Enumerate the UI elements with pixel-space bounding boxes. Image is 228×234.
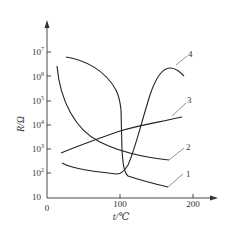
- y-tick-1e5: 105: [32, 95, 44, 106]
- y-tick-1e4: 104: [32, 119, 44, 130]
- x-tick-200: 200: [186, 199, 200, 209]
- y-tick-1e6: 106: [32, 71, 44, 82]
- y-tick-labels: 107 106 105 104 103 102 10: [32, 46, 44, 202]
- x-axis-arrow-icon: [210, 196, 218, 201]
- curve-label-2: 2: [186, 142, 191, 152]
- y-tick-1e2: 102: [32, 167, 44, 178]
- curve-labels: 4 3 2 1: [168, 49, 193, 187]
- curve-1: [66, 57, 168, 187]
- curve-label-3: 3: [187, 95, 192, 105]
- axes: [45, 20, 219, 201]
- y-tick-1e7: 107: [32, 46, 44, 57]
- y-axis-label: R/Ω: [15, 116, 26, 133]
- curve-2: [57, 66, 169, 160]
- x-axis-label: t/℃: [113, 211, 130, 222]
- curves: [57, 57, 184, 187]
- x-tick-0: 0: [45, 203, 50, 213]
- curve-label-4: 4: [188, 49, 193, 59]
- y-tick-10: 10: [32, 192, 42, 202]
- resistance-temperature-chart: 107 106 105 104 103 102 10 R/Ω 0 100 200…: [0, 0, 228, 234]
- curve-label-1: 1: [186, 169, 191, 179]
- y-axis-arrow-icon: [45, 20, 50, 28]
- x-tick-100: 100: [113, 199, 127, 209]
- y-tick-1e3: 103: [32, 143, 44, 154]
